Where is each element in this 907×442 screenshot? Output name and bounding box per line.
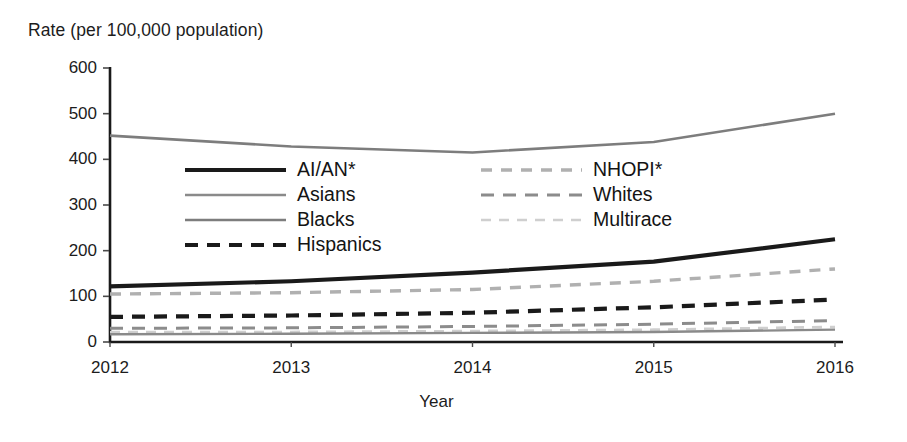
legend-item: Multirace	[481, 207, 672, 232]
legend-line-swatch-icon	[185, 188, 286, 202]
legend-item-label: Blacks	[297, 210, 354, 230]
x-axis-label: Year	[419, 392, 453, 412]
legend-item-label: Whites	[593, 185, 653, 205]
legend-line-swatch-icon	[185, 163, 286, 177]
legend-column-left: AI/AN*AsiansBlacksHispanics	[185, 157, 382, 257]
legend-column-right: NHOPI*WhitesMultirace	[481, 157, 672, 232]
legend-item: Blacks	[185, 207, 382, 232]
legend-item-label: NHOPI*	[593, 160, 662, 180]
y-axis-tick-label: 300	[35, 196, 97, 213]
legend-item-label: Multirace	[593, 210, 672, 230]
legend-line-swatch-icon	[481, 213, 582, 227]
x-axis-tick-label: 2015	[609, 359, 699, 376]
x-axis-label-wrap: Year	[0, 392, 907, 412]
series-line-whites	[110, 321, 835, 329]
legend-line-swatch-icon	[481, 163, 582, 177]
y-axis-tick-label: 0	[35, 333, 97, 350]
legend-item: AI/AN*	[185, 157, 382, 182]
chart-figure: Rate (per 100,000 population) 6005004003…	[0, 0, 907, 442]
y-axis-tick-label: 600	[35, 59, 97, 76]
y-axis-tick-label: 500	[35, 105, 97, 122]
legend-line-swatch-icon	[185, 238, 286, 252]
legend-item-label: Asians	[297, 185, 356, 205]
legend-line-swatch-icon	[185, 213, 286, 227]
x-axis-tick-label: 2013	[246, 359, 336, 376]
legend-item-label: Hispanics	[297, 235, 382, 255]
legend-item: Whites	[481, 182, 672, 207]
legend-item: Hispanics	[185, 232, 382, 257]
y-axis-tick-label: 100	[35, 287, 97, 304]
series-line-hispanics	[110, 300, 835, 317]
x-axis-tick-label: 2012	[65, 359, 155, 376]
x-axis-tick-label: 2016	[790, 359, 880, 376]
x-axis-tick-label: 2014	[428, 359, 518, 376]
legend-line-swatch-icon	[481, 188, 582, 202]
legend-item: Asians	[185, 182, 382, 207]
legend-item-label: AI/AN*	[297, 160, 356, 180]
legend-item: NHOPI*	[481, 157, 672, 182]
y-axis-tick-label: 400	[35, 150, 97, 167]
y-axis-tick-label: 200	[35, 242, 97, 259]
series-line-blacks	[110, 114, 835, 153]
